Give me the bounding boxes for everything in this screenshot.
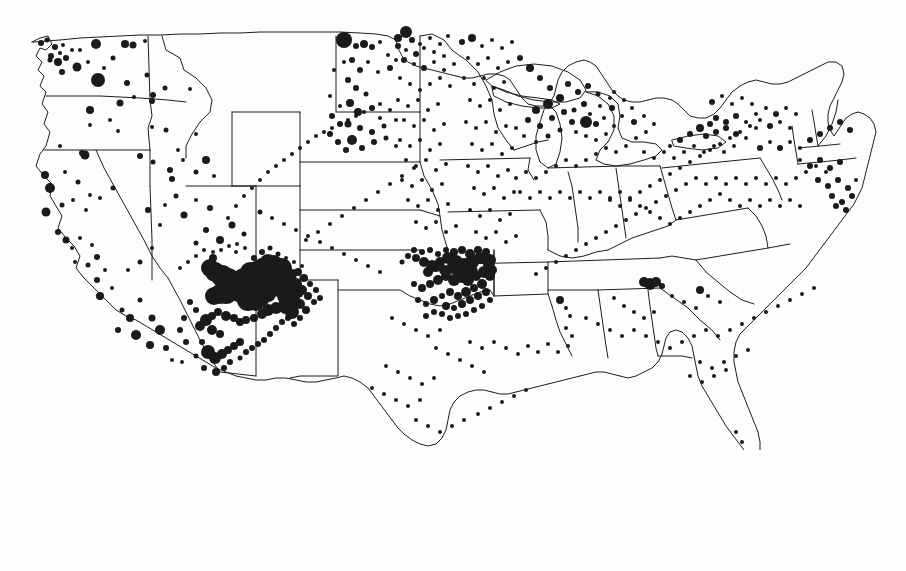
population-symbol bbox=[634, 212, 638, 216]
population-symbol bbox=[438, 42, 442, 46]
boundary-ar-la bbox=[494, 294, 552, 306]
population-symbol bbox=[498, 218, 502, 222]
population-symbol bbox=[604, 132, 608, 136]
population-symbol bbox=[554, 164, 558, 168]
population-symbol bbox=[798, 146, 802, 150]
population-symbol bbox=[574, 130, 578, 134]
population-symbol bbox=[463, 311, 469, 317]
population-symbol bbox=[754, 126, 758, 130]
population-symbol bbox=[181, 212, 188, 219]
population-symbol bbox=[402, 118, 406, 122]
population-symbol bbox=[588, 196, 592, 200]
population-symbol bbox=[58, 51, 62, 55]
population-symbol bbox=[386, 53, 390, 57]
population-symbol bbox=[450, 248, 458, 256]
population-symbol bbox=[451, 305, 457, 311]
population-symbol bbox=[409, 37, 415, 43]
population-symbol bbox=[400, 178, 404, 182]
population-symbol bbox=[510, 146, 514, 150]
population-symbol bbox=[359, 145, 365, 151]
population-symbol bbox=[446, 288, 454, 296]
population-symbol bbox=[435, 251, 441, 257]
population-symbol bbox=[177, 327, 183, 333]
population-symbol bbox=[593, 121, 599, 127]
population-symbol bbox=[438, 328, 442, 332]
population-symbol bbox=[798, 204, 802, 208]
population-symbol bbox=[81, 151, 90, 160]
population-symbol bbox=[314, 134, 318, 138]
population-symbol bbox=[612, 124, 616, 128]
population-symbol bbox=[746, 348, 750, 352]
population-symbol bbox=[91, 39, 101, 49]
population-symbol bbox=[164, 128, 169, 133]
population-symbol bbox=[718, 142, 722, 146]
population-symbol bbox=[482, 192, 486, 196]
population-symbol bbox=[415, 297, 421, 303]
population-symbol bbox=[596, 322, 600, 326]
population-symbol bbox=[634, 136, 638, 140]
population-symbol bbox=[267, 331, 273, 337]
population-symbol bbox=[438, 430, 442, 434]
population-symbol bbox=[238, 356, 243, 361]
population-symbol bbox=[680, 340, 684, 344]
population-symbol bbox=[38, 40, 44, 46]
population-symbol bbox=[500, 152, 504, 156]
population-symbol bbox=[468, 208, 472, 212]
population-symbol bbox=[420, 178, 424, 182]
population-symbol bbox=[648, 210, 652, 214]
population-symbol bbox=[712, 144, 716, 148]
population-symbol bbox=[110, 286, 114, 290]
population-symbol bbox=[575, 89, 581, 95]
population-symbol bbox=[517, 55, 523, 61]
population-symbol bbox=[414, 164, 418, 168]
population-symbol bbox=[612, 90, 616, 94]
population-symbol bbox=[824, 170, 828, 174]
population-symbol bbox=[207, 205, 213, 211]
population-symbol bbox=[618, 204, 622, 208]
population-symbol bbox=[394, 398, 398, 402]
population-symbol bbox=[342, 252, 346, 256]
population-symbol bbox=[584, 134, 588, 138]
population-symbol bbox=[566, 344, 570, 348]
us-map-svg bbox=[0, 0, 906, 450]
population-symbol bbox=[632, 328, 636, 332]
population-symbol bbox=[414, 328, 418, 332]
population-symbol bbox=[335, 139, 341, 145]
population-symbol bbox=[194, 170, 199, 175]
population-symbol bbox=[544, 266, 548, 270]
population-symbol bbox=[692, 144, 696, 148]
population-symbol bbox=[371, 139, 377, 145]
population-symbol bbox=[401, 57, 407, 63]
population-symbol bbox=[423, 267, 433, 277]
population-symbol bbox=[556, 94, 564, 102]
boundary-ky-wv-va bbox=[608, 220, 676, 250]
population-symbol bbox=[48, 58, 53, 63]
population-symbol bbox=[226, 216, 230, 220]
population-symbol bbox=[817, 131, 823, 137]
population-symbol bbox=[807, 137, 813, 143]
population-symbol bbox=[221, 311, 231, 321]
population-symbol bbox=[234, 250, 238, 254]
population-symbol bbox=[837, 119, 843, 125]
population-symbol bbox=[568, 196, 572, 200]
population-symbol bbox=[565, 81, 571, 87]
population-symbol bbox=[602, 116, 606, 120]
population-symbol bbox=[418, 138, 422, 142]
population-symbol bbox=[404, 48, 408, 52]
population-symbol bbox=[376, 190, 380, 194]
population-symbol bbox=[143, 39, 147, 43]
population-symbol bbox=[652, 310, 656, 314]
population-symbol bbox=[514, 176, 518, 180]
boundary-pa-ny bbox=[662, 158, 760, 168]
population-symbol bbox=[720, 94, 724, 98]
population-symbol bbox=[306, 140, 310, 144]
population-symbol bbox=[604, 230, 608, 234]
population-symbol bbox=[620, 334, 624, 338]
population-symbol bbox=[59, 69, 65, 75]
population-symbol bbox=[390, 316, 394, 320]
population-symbol bbox=[342, 60, 346, 64]
population-symbol bbox=[482, 370, 486, 374]
population-symbol bbox=[558, 128, 563, 133]
population-symbol bbox=[349, 57, 355, 63]
population-symbol bbox=[514, 234, 518, 238]
